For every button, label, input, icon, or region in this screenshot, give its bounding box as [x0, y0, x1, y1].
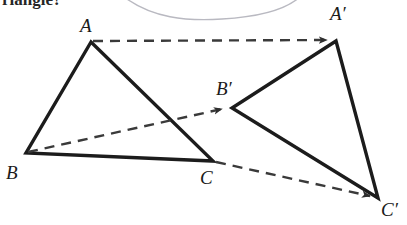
gray-arc-decoration	[118, 0, 303, 20]
translation-arrow-b-to-b-prime	[28, 109, 222, 152]
vertex-label-b: B	[6, 163, 18, 182]
triangle-abc	[26, 42, 213, 161]
vertex-label-a: A	[80, 16, 92, 35]
vertex-label-c-prime: C′	[381, 200, 398, 219]
translation-arrow-a-to-a-prime	[93, 40, 327, 41]
triangle-a-prime-b-prime-c-prime	[232, 41, 378, 198]
geometry-figure	[0, 0, 407, 225]
vertex-label-b-prime: B′	[216, 79, 232, 98]
vertex-label-a-prime: A′	[330, 4, 346, 23]
vertex-label-c: C	[200, 168, 213, 187]
figure-canvas: riangle? A B C A′ B′ C′	[0, 0, 407, 225]
